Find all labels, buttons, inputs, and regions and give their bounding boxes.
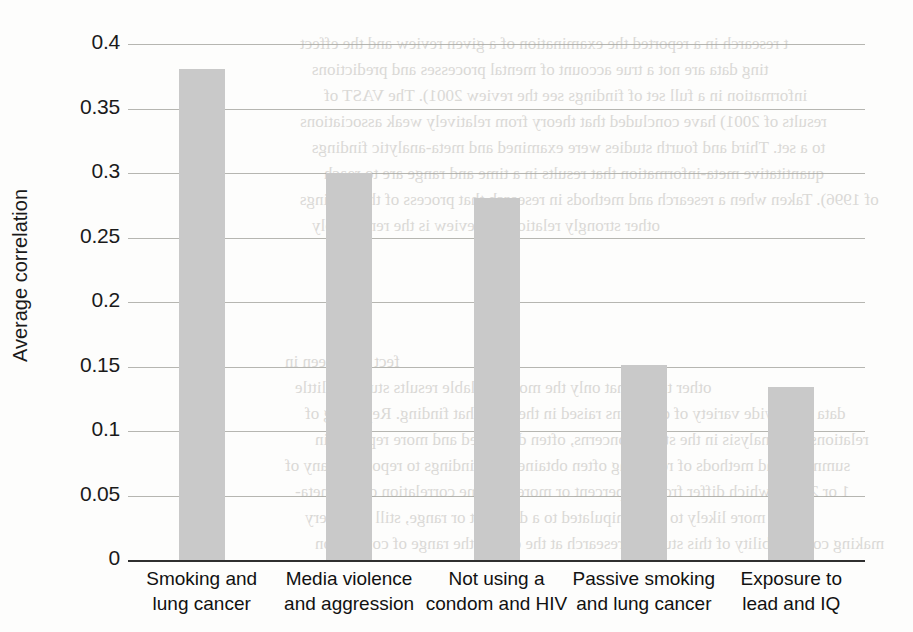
plot-area xyxy=(128,44,865,560)
y-axis-tick-label: 0.15 xyxy=(80,353,120,377)
y-axis-tick-label: 0.3 xyxy=(91,159,120,183)
bar xyxy=(179,69,225,560)
category-label-line: Passive smoking xyxy=(570,566,717,591)
x-axis-line xyxy=(128,560,865,562)
y-axis-tick-label: 0.05 xyxy=(80,482,120,506)
category-label-line: Not using a xyxy=(423,566,570,591)
y-axis-tick-label: 0.4 xyxy=(91,30,120,54)
gridline xyxy=(128,109,865,110)
y-axis-tick-label: 0.1 xyxy=(91,417,120,441)
y-axis-tick-label: 0.25 xyxy=(80,224,120,248)
bar xyxy=(326,173,372,560)
bar xyxy=(474,198,520,560)
gridline xyxy=(128,44,865,45)
category-label-line: and aggression xyxy=(275,591,422,616)
x-axis-category-label: Passive smokingand lung cancer xyxy=(570,566,717,616)
x-axis-category-label: Exposure tolead and IQ xyxy=(718,566,865,616)
y-axis-tick-labels: 00.050.10.150.20.250.30.350.4 xyxy=(0,44,120,560)
category-label-line: Exposure to xyxy=(718,566,865,591)
category-label-line: lung cancer xyxy=(128,591,275,616)
category-label-line: condom and HIV xyxy=(423,591,570,616)
category-label-line: and lung cancer xyxy=(570,591,717,616)
y-axis-tick-label: 0.35 xyxy=(80,95,120,119)
category-label-line: lead and IQ xyxy=(718,591,865,616)
bar xyxy=(768,387,814,560)
category-label-line: Smoking and xyxy=(128,566,275,591)
gridline xyxy=(128,173,865,174)
x-axis-category-label: Not using acondom and HIV xyxy=(423,566,570,616)
category-label-line: Media violence xyxy=(275,566,422,591)
y-axis-tick-label: 0 xyxy=(109,546,120,570)
bar-chart: Average correlation 00.050.10.150.20.250… xyxy=(0,0,913,632)
x-axis-category-label: Media violenceand aggression xyxy=(275,566,422,616)
x-axis-category-label: Smoking andlung cancer xyxy=(128,566,275,616)
bar xyxy=(621,365,667,560)
y-axis-tick-label: 0.2 xyxy=(91,288,120,312)
x-axis-category-labels: Smoking andlung cancerMedia violenceand … xyxy=(128,566,865,628)
chart-page: t research in a reported the examination… xyxy=(0,0,913,632)
